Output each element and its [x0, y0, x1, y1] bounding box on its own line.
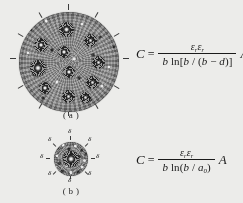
epsilon-subscript: r [191, 152, 194, 159]
radial-tick [46, 158, 50, 159]
delta-label: δ [68, 128, 71, 135]
rosette-cluster [34, 38, 48, 52]
rosette-cluster [63, 151, 79, 167]
rosette-cluster [84, 34, 97, 47]
radial-tick [91, 158, 95, 159]
radial-tick [39, 12, 43, 18]
figure-page: ( a ) δ δ δ δ δ δ δ δ [0, 0, 243, 203]
rosette-cluster [92, 56, 105, 69]
equation-b: C = εrεr b ln(b / a0) A [136, 147, 227, 174]
epsilon-subscript: r [202, 46, 205, 53]
figure-panel-a: ( a ) [8, 2, 134, 126]
equation-a-numerator: εrεr [186, 41, 210, 53]
radial-tick [18, 33, 24, 37]
equation-a-denominator: b ln[b / (b − d)] [158, 54, 236, 68]
equation-a-equals-sign: = [148, 47, 155, 62]
delta-label: δ [40, 153, 43, 160]
variable-b: b [162, 161, 168, 173]
variable-b: b [162, 55, 168, 67]
radial-tick [53, 171, 57, 175]
equation-b-lhs: C [136, 152, 145, 168]
radial-tick [114, 33, 120, 37]
delta-label: δ [96, 153, 99, 160]
rosette-cluster [58, 46, 70, 58]
closing-paren: ) [207, 161, 211, 173]
equation-a: C = εrεr b ln[b / (b − d)] A [136, 41, 243, 68]
figure-caption-b: ( b ) [28, 186, 114, 196]
ln-operator: ln[ [171, 55, 184, 67]
equation-a-lhs: C [136, 46, 145, 62]
division-open-paren: / ( [189, 55, 202, 67]
rosette-cluster [86, 76, 99, 89]
radial-tick [10, 58, 16, 59]
rosette-cluster [80, 92, 91, 103]
radial-tick [114, 85, 120, 89]
equation-b-equals-sign: = [148, 153, 155, 168]
radial-tick [123, 58, 129, 59]
rosette-cluster [39, 82, 51, 94]
radial-tick [95, 12, 99, 18]
rosette-cluster [62, 90, 75, 103]
rosette-cluster [30, 60, 46, 76]
division-slash: / [189, 161, 198, 173]
radial-tick [68, 4, 69, 10]
equation-b-denominator: b ln(b / a0) [158, 160, 214, 174]
radial-tick [53, 143, 57, 147]
rosette-cluster [59, 22, 74, 37]
radial-tick [70, 136, 71, 140]
radial-tick [18, 85, 24, 89]
delta-label: δ [88, 136, 91, 143]
figure-caption-a: ( a ) [8, 110, 134, 120]
equation-b-area-term: A [219, 152, 227, 168]
equation-b-numerator: εrεr [175, 147, 199, 159]
radial-tick [85, 143, 89, 147]
equation-a-fraction: εrεr b ln[b / (b − d)] [158, 41, 236, 68]
delta-label: δ [48, 136, 51, 143]
delta-label: δ [48, 170, 51, 177]
equation-a-area-term: A [240, 46, 243, 62]
rosette-cluster [63, 66, 75, 78]
closing-brackets: )] [225, 55, 233, 67]
figure-panel-b: δ δ δ δ δ δ δ δ ( b ) [28, 126, 114, 202]
equation-b-fraction: εrεr b ln(b / a0) [158, 147, 214, 174]
ln-operator: ln( [171, 161, 184, 173]
minus-sign: − [207, 55, 219, 67]
